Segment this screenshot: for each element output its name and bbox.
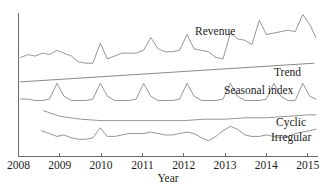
- series-label-cyclic: Cyclic: [276, 116, 306, 129]
- series-line-trend: [21, 63, 314, 82]
- series-label-irregular: Irregular: [271, 131, 311, 144]
- x-axis-tick-label: 2008: [7, 159, 30, 171]
- x-axis-tick-label: 2015: [296, 159, 319, 171]
- x-axis-title: Year: [157, 172, 178, 184]
- x-axis-tick-label: 2012: [172, 159, 195, 171]
- x-axis-tick-label: 2014: [255, 159, 278, 171]
- series-label-trend: Trend: [274, 66, 301, 78]
- series-label-seasonal-index: Seasonal index: [224, 84, 294, 96]
- series-line-revenue: [21, 14, 316, 63]
- x-axis-tick-label: 2013: [214, 159, 237, 171]
- series-label-revenue: Revenue: [195, 25, 235, 37]
- chart-canvas: 20082009201020112012201320142015 Year Re…: [0, 0, 329, 190]
- x-axis-tick-label: 2010: [90, 159, 113, 171]
- time-series-decomposition-chart: 20082009201020112012201320142015 Year Re…: [0, 0, 329, 190]
- x-axis-tick-label: 2009: [48, 159, 71, 171]
- series-group: [21, 14, 316, 140]
- x-axis-tick-labels: 20082009201020112012201320142015: [7, 159, 319, 171]
- x-axis-tick-marks: [19, 153, 308, 157]
- x-axis-tick-label: 2011: [131, 159, 154, 171]
